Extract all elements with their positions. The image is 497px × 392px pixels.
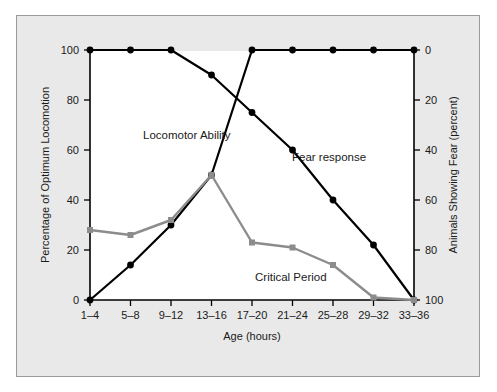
data-point-4 — [249, 240, 255, 246]
data-point-7 — [370, 242, 377, 249]
x-tick-label-1: 5–8 — [121, 309, 139, 321]
x-axis-tick-labels: 1–45–89–1213–1617–2021–2425–2829–3233–36 — [81, 309, 429, 321]
right-tick-label-80: 80 — [425, 244, 437, 256]
data-point-1 — [127, 262, 134, 269]
left-tick-label-20: 20 — [67, 244, 79, 256]
right-axis-ticks — [414, 50, 420, 300]
left-axis-ticks — [84, 50, 90, 300]
right-tick-label-100: 100 — [425, 294, 443, 306]
data-point-1 — [127, 47, 134, 54]
data-point-5 — [290, 245, 296, 251]
data-point-6 — [330, 47, 337, 54]
x-tick-label-3: 13–16 — [196, 309, 227, 321]
y-axis-title: Percentage of Optimum Locomotion — [39, 87, 51, 263]
left-tick-label-100: 100 — [61, 44, 79, 56]
left-tick-label-0: 0 — [73, 294, 79, 306]
data-point-3 — [209, 172, 215, 178]
data-point-4 — [249, 109, 256, 116]
data-point-4 — [249, 47, 256, 54]
data-point-8 — [411, 47, 418, 54]
x-axis-title: Age (hours) — [223, 330, 280, 342]
data-point-7 — [370, 47, 377, 54]
left-tick-label-40: 40 — [67, 194, 79, 206]
y2-axis-title: Animals Showing Fear (percent) — [447, 96, 459, 253]
data-point-6 — [330, 197, 337, 204]
annotation-locomotor-ability: Locomotor Ability — [143, 129, 231, 141]
x-tick-label-0: 1–4 — [81, 309, 99, 321]
right-tick-label-60: 60 — [425, 194, 437, 206]
line-chart: 0 20 40 60 80 100 0 20 40 60 80 100 — [17, 16, 479, 376]
x-axis-ticks — [90, 300, 414, 306]
left-tick-label-60: 60 — [67, 144, 79, 156]
data-point-0 — [87, 297, 94, 304]
data-point-3 — [208, 72, 215, 79]
data-point-8 — [411, 297, 417, 303]
data-point-6 — [330, 262, 336, 268]
right-tick-label-40: 40 — [425, 144, 437, 156]
annotation-fear-response: Fear response — [292, 151, 366, 163]
data-point-2 — [168, 47, 175, 54]
plot-area-background — [90, 51, 414, 300]
x-tick-label-7: 29–32 — [358, 309, 389, 321]
x-tick-label-8: 33–36 — [399, 309, 430, 321]
right-tick-label-20: 20 — [425, 94, 437, 106]
data-point-5 — [289, 47, 296, 54]
annotation-critical-period: Critical Period — [255, 271, 327, 283]
data-point-0 — [87, 47, 94, 54]
data-point-2 — [168, 217, 174, 223]
data-point-1 — [128, 232, 134, 238]
x-tick-label-5: 21–24 — [277, 309, 308, 321]
x-tick-label-6: 25–28 — [318, 309, 349, 321]
data-point-0 — [87, 227, 93, 233]
right-tick-label-0: 0 — [425, 44, 431, 56]
x-tick-label-4: 17–20 — [237, 309, 268, 321]
data-point-7 — [371, 295, 377, 301]
x-tick-label-2: 9–12 — [159, 309, 183, 321]
figure-root: 0 20 40 60 80 100 0 20 40 60 80 100 — [0, 0, 497, 392]
figure-panel: 0 20 40 60 80 100 0 20 40 60 80 100 — [16, 15, 480, 377]
left-tick-label-80: 80 — [67, 94, 79, 106]
